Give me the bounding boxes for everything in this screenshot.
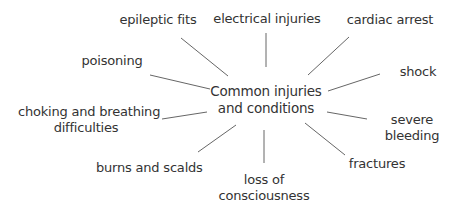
connector-severe-bleeding: [327, 112, 367, 119]
connector-choking: [162, 112, 207, 119]
node-fractures: fractures: [348, 156, 406, 172]
node-epileptic-fits: epileptic fits: [118, 12, 198, 28]
connector-shock: [328, 74, 380, 91]
node-electrical-injuries: electrical injuries: [210, 11, 324, 27]
connector-burns-and-scalds: [198, 125, 236, 152]
node-poisoning: poisoning: [80, 53, 144, 69]
node-shock: shock: [398, 64, 438, 80]
node-burns-and-scalds: burns and scalds: [96, 160, 200, 176]
connector-poisoning: [150, 75, 210, 89]
node-cardiac-arrest: cardiac arrest: [345, 12, 435, 28]
connector-fractures: [305, 123, 345, 155]
connector-epileptic-fits: [181, 38, 228, 76]
center-node-line2: and conditions: [203, 100, 329, 117]
center-node: Common injuries and conditions: [203, 83, 329, 117]
node-severe-bleeding: severe bleeding: [384, 112, 440, 144]
node-loss-of-consciousness: loss of consciousness: [218, 172, 310, 204]
connector-cardiac-arrest: [308, 37, 349, 75]
node-choking: choking and breathing difficulties: [18, 104, 154, 136]
center-node-line1: Common injuries: [203, 83, 329, 100]
